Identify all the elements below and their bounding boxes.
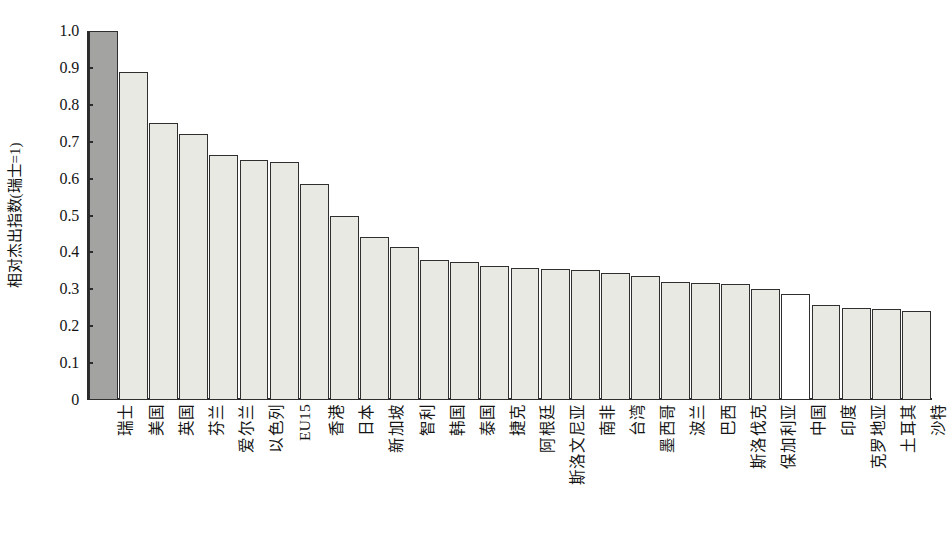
- bar: [420, 260, 449, 400]
- bar: [601, 273, 630, 400]
- x-tick-label: 捷克: [503, 404, 529, 540]
- x-tick-label: 泰国: [473, 404, 499, 540]
- y-tick-label: 0: [71, 391, 79, 409]
- x-tick-label: 爱尔兰: [232, 404, 258, 540]
- y-tick-label: 0.7: [60, 133, 79, 151]
- bar: [751, 289, 780, 400]
- y-tick-mark: [87, 288, 93, 290]
- y-tick-label: 1.0: [60, 22, 79, 40]
- x-tick-label: 斯洛伐克: [744, 404, 770, 540]
- x-tick-label: 新加坡: [382, 404, 408, 540]
- x-tick-label: 英国: [172, 404, 198, 540]
- bar: [842, 308, 871, 400]
- bar: [571, 270, 600, 400]
- bar: [902, 311, 931, 400]
- y-tick-label: 0.6: [60, 170, 79, 188]
- bar: [661, 282, 690, 400]
- bar: [721, 284, 750, 400]
- bar: [179, 134, 208, 400]
- y-tick-label: 0.3: [60, 280, 79, 298]
- x-tick-label: 保加利亚: [774, 404, 800, 540]
- x-tick-label: 智利: [413, 404, 439, 540]
- x-tick-label: 斯洛文尼亚: [563, 404, 589, 540]
- x-tick-label: 瑞士: [111, 404, 137, 540]
- x-tick-label: 克罗地亚: [864, 404, 890, 540]
- bar: [89, 31, 118, 400]
- x-tick-label: 阿根廷: [533, 404, 559, 540]
- y-axis-tick-labels: 1.00.90.80.70.60.50.40.30.20.10: [24, 0, 87, 540]
- x-tick-label: 芬兰: [202, 404, 228, 540]
- y-tick-mark: [87, 178, 93, 180]
- x-tick-label: EU15: [292, 404, 318, 540]
- bar: [691, 283, 720, 400]
- y-tick-label: 0.5: [60, 207, 79, 225]
- bar: [240, 160, 269, 400]
- y-axis-title: 相对杰出指数(瑞士=1): [2, 31, 24, 400]
- bar: [209, 155, 238, 400]
- x-tick-label: 巴西: [714, 404, 740, 540]
- x-tick-label: 沙特: [924, 404, 950, 540]
- y-tick-label: 0.4: [60, 243, 79, 261]
- y-tick-label: 0.9: [60, 59, 79, 77]
- y-tick-mark: [87, 141, 93, 143]
- y-tick-mark: [87, 251, 93, 253]
- bar: [330, 216, 359, 401]
- plot-area: [87, 31, 932, 400]
- x-axis-tick-labels: 瑞士美国英国芬兰爱尔兰以色列EU15香港日本新加坡智利韩国泰国捷克阿根廷斯洛文尼…: [87, 404, 932, 540]
- bar: [390, 247, 419, 400]
- y-tick-label: 0.1: [60, 354, 79, 372]
- x-tick-label: 南非: [593, 404, 619, 540]
- bar: [541, 269, 570, 400]
- bar: [781, 294, 810, 400]
- bar: [149, 123, 178, 400]
- bar: [119, 72, 148, 400]
- x-tick-label: 日本: [352, 404, 378, 540]
- bar: [812, 305, 841, 400]
- y-tick-mark: [87, 104, 93, 106]
- x-tick-label: 中国: [804, 404, 830, 540]
- y-tick-mark: [87, 325, 93, 327]
- bar: [300, 184, 329, 400]
- bar: [511, 268, 540, 400]
- x-tick-label: 墨西哥: [653, 404, 679, 540]
- x-tick-label: 印度: [834, 404, 860, 540]
- bar: [631, 276, 660, 400]
- x-tick-label: 土耳其: [894, 404, 920, 540]
- y-tick-label: 0.8: [60, 96, 79, 114]
- bar: [480, 266, 509, 400]
- bar: [450, 262, 479, 400]
- x-tick-label: 台湾: [623, 404, 649, 540]
- y-tick-mark: [87, 215, 93, 217]
- x-tick-label: 韩国: [443, 404, 469, 540]
- bar: [872, 309, 901, 400]
- y-tick-mark: [87, 67, 93, 69]
- bar: [270, 162, 299, 400]
- y-tick-mark: [87, 362, 93, 364]
- x-tick-label: 香港: [322, 404, 348, 540]
- x-tick-label: 波兰: [683, 404, 709, 540]
- y-tick-label: 0.2: [60, 317, 79, 335]
- x-tick-label: 美国: [142, 404, 168, 540]
- x-tick-label: 以色列: [262, 404, 288, 540]
- bar: [360, 237, 389, 400]
